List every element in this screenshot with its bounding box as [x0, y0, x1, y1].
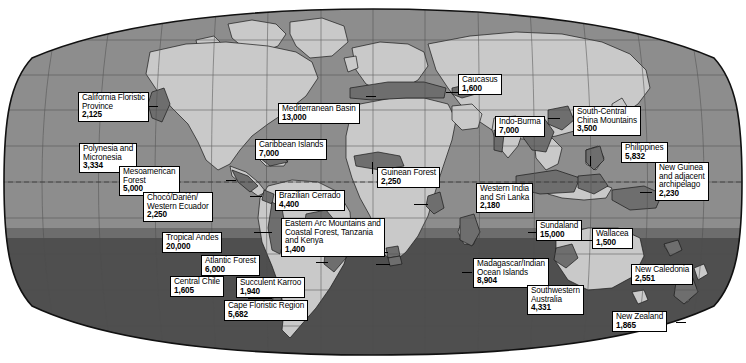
hotspot-value: 2,125 — [82, 111, 145, 120]
map-graphic — [0, 0, 746, 363]
leader-cape — [376, 264, 390, 265]
hotspot-label-mediterranean-basin[interactable]: Mediterranean Basin 13,000 — [278, 103, 360, 124]
hotspot-label-central-chile[interactable]: Central Chile 1,605 — [170, 276, 224, 297]
world-map: California Floristic Province 2,125 Poly… — [0, 0, 746, 363]
leader-guinean — [372, 162, 373, 174]
hotspot-label-choco-darien-western-ecuador[interactable]: Chocó/Darién/ Western Ecuador 2,250 — [143, 192, 213, 222]
hotspot-value: 2,180 — [480, 202, 529, 211]
leader-new-guinea — [640, 192, 652, 193]
leader-mesoamerica — [226, 180, 236, 181]
hotspot-label-guinean-forest[interactable]: Guinean Forest 2,250 — [377, 167, 440, 188]
leader-tropical-andes — [254, 232, 272, 233]
hotspot-value: 5,832 — [625, 153, 664, 162]
hotspot-label-new-zealand[interactable]: New Zealand 1,865 — [612, 311, 667, 332]
hotspot-label-cape-floristic-region[interactable]: Cape Floristic Region 5,682 — [224, 300, 308, 321]
hotspot-label-indo-burma[interactable]: Indo-Burma 7,000 — [495, 116, 545, 137]
hotspot-value: 2,230 — [659, 190, 705, 199]
hotspot-label-philippines[interactable]: Philippines 5,832 — [621, 142, 668, 163]
hotspot-label-succulent-karroo[interactable]: Succulent Karroo 1,940 — [236, 277, 305, 298]
hotspot-label-caribbean-islands[interactable]: Caribbean Islands 7,000 — [255, 139, 327, 160]
hotspot-value: 5,682 — [228, 311, 304, 320]
leader-wallacea — [582, 240, 592, 241]
hotspot-cape-floristic — [388, 256, 402, 266]
hotspot-label-california-floristic-province[interactable]: California Floristic Province 2,125 — [78, 92, 149, 122]
hotspot-value: 4,400 — [279, 201, 341, 210]
hotspot-label-sundaland[interactable]: Sundaland 15,000 — [536, 220, 582, 241]
leader-new-zealand — [676, 322, 686, 323]
leader-caucasus — [446, 92, 458, 93]
hotspot-value: 1,600 — [462, 85, 498, 94]
hotspot-value: 3,500 — [577, 125, 637, 134]
map-body — [0, 0, 746, 363]
hotspot-label-wallacea[interactable]: Wallacea 1,500 — [592, 228, 633, 249]
hotspot-value: 1,500 — [596, 239, 629, 248]
leader-atlantic-forest — [316, 262, 328, 263]
hotspot-value: 15,000 — [540, 231, 578, 240]
hotspot-value: 1,940 — [240, 288, 301, 297]
hotspot-value: 7,000 — [259, 150, 323, 159]
hotspot-value: 1,400 — [285, 246, 381, 255]
leader-madagascar — [462, 272, 472, 273]
hotspot-label-brazilian-cerrado[interactable]: Brazilian Cerrado 4,400 — [275, 190, 345, 211]
leader-china — [548, 118, 560, 119]
hotspot-value: 20,000 — [166, 243, 218, 252]
hotspot-value: 13,000 — [282, 114, 356, 123]
hotspot-value: 1,865 — [616, 322, 663, 331]
hotspot-value: 1,605 — [174, 287, 220, 296]
hotspot-label-madagascar-indian-ocean-islands[interactable]: Madagascar/Indian Ocean Islands 8,904 — [473, 258, 549, 288]
hotspot-label-south-central-china-mountains[interactable]: South-Central China Mountains 3,500 — [573, 106, 641, 136]
hotspot-value: 7,000 — [499, 127, 541, 136]
hotspot-label-caucasus[interactable]: Caucasus 1,600 — [458, 74, 502, 95]
hotspot-value: 6,000 — [205, 266, 256, 275]
leader-choco — [250, 196, 262, 197]
hotspot-value: 2,551 — [635, 275, 689, 284]
hotspot-label-new-guinea-and-adjacent-archipelago[interactable]: New Guinea and adjacent archipelago 2,23… — [655, 162, 709, 201]
hotspot-label-eastern-arc-mountains[interactable]: Eastern Arc Mountains and Coastal Forest… — [281, 218, 385, 257]
hotspot-label-atlantic-forest[interactable]: Atlantic Forest 6,000 — [201, 255, 260, 276]
hotspot-value: 4,331 — [531, 304, 580, 313]
hotspot-value: 2,250 — [147, 211, 209, 220]
leader-philippines — [590, 156, 591, 166]
hotspot-label-new-caledonia[interactable]: New Caledonia 2,551 — [631, 264, 693, 285]
hotspot-value: 2,250 — [381, 178, 436, 187]
hotspot-label-southwestern-australia[interactable]: Southwestern Australia 4,331 — [527, 285, 584, 315]
hotspot-label-western-india-and-sri-lanka[interactable]: Western India and Sri Lanka 2,180 — [476, 183, 533, 213]
hotspot-label-tropical-andes[interactable]: Tropical Andes 20,000 — [162, 232, 222, 253]
leader-mediterranean — [366, 96, 376, 97]
leader-eastern-arc — [414, 204, 428, 205]
